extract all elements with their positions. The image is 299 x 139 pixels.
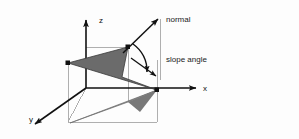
x-axis-label: x: [203, 84, 207, 93]
normal-label: normal: [166, 15, 191, 24]
slope-angle-diagram-svg: z x y normal slope angle: [0, 0, 299, 139]
figure-background: [0, 0, 299, 139]
slope-angle-label: slope angle: [166, 55, 207, 64]
vertex-dot-right: [155, 88, 160, 93]
y-axis-label: y: [29, 115, 33, 124]
vertex-dot-left: [66, 61, 71, 66]
z-axis-label: z: [99, 16, 103, 25]
figure-container: z x y normal slope angle: [0, 0, 299, 139]
